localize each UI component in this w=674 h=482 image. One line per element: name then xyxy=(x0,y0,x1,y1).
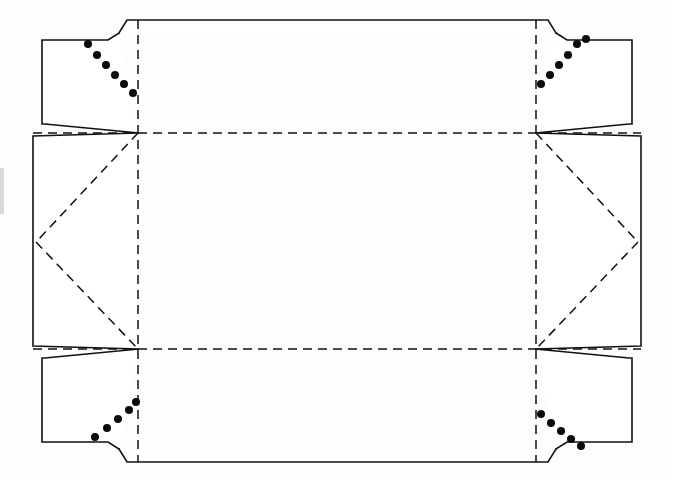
glue-dot-top-left-3 xyxy=(102,61,110,69)
glue-dot-top-right-6 xyxy=(582,35,590,43)
glue-dot-top-right-1 xyxy=(537,80,545,88)
glue-dots-layer xyxy=(84,35,590,450)
glue-dot-top-left-2 xyxy=(93,51,101,59)
glue-dot-top-left-6 xyxy=(129,89,137,97)
glue-dot-top-right-5 xyxy=(573,40,581,48)
glue-dot-bottom-right-2 xyxy=(547,419,555,427)
glue-dot-top-left-1 xyxy=(84,40,92,48)
bottom-left-tuck-flap xyxy=(42,349,138,449)
dieline-drawing xyxy=(0,0,674,482)
glue-dot-bottom-right-3 xyxy=(557,427,565,435)
glue-dot-top-right-4 xyxy=(564,51,572,59)
glue-dot-bottom-right-1 xyxy=(537,410,545,418)
glue-dot-top-right-2 xyxy=(546,71,554,79)
dieline-canvas: Box Dieline Template Flat packaging diel… xyxy=(0,0,674,482)
bottom-main-flap xyxy=(119,449,556,462)
right-side-panel xyxy=(536,133,641,349)
bottom-right-tuck-flap xyxy=(536,349,632,449)
glue-dot-top-left-4 xyxy=(111,71,119,79)
scan-edge-band xyxy=(0,168,4,214)
glue-dot-bottom-left-4 xyxy=(125,406,133,414)
glue-dot-bottom-right-5 xyxy=(577,442,585,450)
top-right-tuck-flap xyxy=(536,33,632,133)
glue-dot-bottom-left-5 xyxy=(132,398,140,406)
glue-dot-bottom-left-2 xyxy=(103,424,111,432)
glue-dot-bottom-right-4 xyxy=(567,435,575,443)
glue-dot-bottom-left-3 xyxy=(114,415,122,423)
glue-dot-top-right-3 xyxy=(555,61,563,69)
glue-dot-top-left-5 xyxy=(120,80,128,88)
left-side-panel xyxy=(33,133,138,349)
glue-dot-bottom-left-1 xyxy=(91,433,99,441)
top-main-flap xyxy=(119,20,556,33)
